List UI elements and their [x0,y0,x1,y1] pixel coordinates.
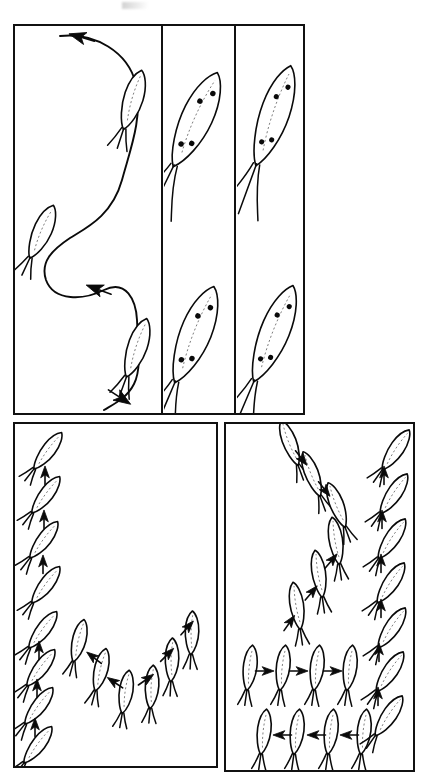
larva-body-outline [372,515,411,563]
larva-filament [108,125,122,148]
larva-body-outline [376,426,415,474]
larva-figure [17,562,66,619]
larva-figure [13,202,63,280]
larva-filament [13,253,28,274]
larva-figure [9,722,58,776]
larva-body-outline [67,618,92,664]
larva-filament [313,496,324,513]
larva-figure [252,708,275,770]
larva-filament [291,465,302,482]
larva-filament [24,258,39,279]
larva-body-outline [114,67,152,132]
panel-b-figures [131,64,238,438]
larva-figure [319,708,342,770]
panel-d-figures [9,428,200,776]
larva-filament [172,681,178,696]
larva-filament [293,629,301,646]
larva-figure [135,279,236,438]
larva-filament [246,690,254,706]
larva-figure [285,708,308,770]
larva-filament [234,380,254,428]
panel-e-figures [238,418,416,770]
larva-figure [131,64,238,222]
larva-figure [352,708,375,770]
larva-body-outline [115,669,136,715]
larva-filament [360,754,368,770]
larva-filament [260,754,268,770]
direction-arrow [290,667,309,676]
larva-body-outline [242,61,306,171]
direction-arrow [39,555,48,574]
larva-body-outline [21,202,62,262]
larva-filament [305,689,313,705]
arrow-shaft [108,390,120,398]
larva-body-outline [287,708,307,755]
larva-body-outline [340,644,360,691]
larva-filament [183,654,189,669]
larva-filament [313,690,321,706]
larva-figure [63,618,92,678]
larva-filament [190,654,191,669]
drawing-stage [0,0,429,776]
larva-filament [302,628,310,645]
direction-arrow [324,667,343,676]
larva-figure [367,426,416,487]
larva-filament [315,597,323,614]
larva-filament [192,654,198,669]
larvae-layer [9,28,416,776]
larva-filament [150,708,157,723]
larva-filament [252,753,260,769]
larva-filament [163,681,169,696]
larva-filament [149,708,150,723]
larva-filament [170,681,171,696]
larva-body-outline [164,638,180,683]
larva-body-outline [273,644,293,691]
direction-arrow [307,731,326,740]
larva-body-outline [160,281,229,389]
larva-filament [338,689,346,705]
larva-body-outline [26,563,65,608]
arrow-shaft [305,593,311,600]
larva-body-outline [19,684,58,729]
larva-filament [341,563,349,580]
larva-filament [293,754,301,770]
larva-figure [108,67,153,151]
larva-body-outline [184,611,200,656]
larva-figure [287,581,310,646]
larva-filament [346,690,354,706]
arrow-shaft [325,561,331,568]
direction-arrow [67,28,96,47]
larva-figure [163,638,180,697]
larva-figure [238,644,261,706]
larva-body-outline [240,644,260,691]
arrow-head [113,390,134,410]
larva-filament [319,753,327,769]
panel-a-figures [13,28,157,410]
larva-figure [183,611,200,670]
larva-figure [305,644,328,706]
larva-body-outline [117,316,156,381]
larva-body-outline [143,664,160,709]
larva-body-outline [240,280,307,387]
larva-figure [271,644,294,706]
larva-body-outline [307,644,327,691]
larva-figure [215,278,313,436]
larva-filament [142,707,149,722]
direction-arrow [256,667,275,676]
larva-body-outline [28,429,67,474]
larva-filament [327,754,335,770]
larva-filament [285,753,293,769]
larva-filament [352,753,360,769]
arrow-shaft [284,623,290,631]
larva-body-outline [321,708,341,755]
larva-body-outline [159,66,233,173]
larva-body-outline [21,646,60,691]
larva-body-outline [254,708,274,755]
larva-filament [271,689,279,705]
larva-filament [151,165,174,212]
larva-body-outline [354,708,374,755]
larva-filament [324,596,332,613]
larva-filament [332,564,340,581]
larva-figure [338,644,361,706]
panel-c-figures [215,59,313,436]
